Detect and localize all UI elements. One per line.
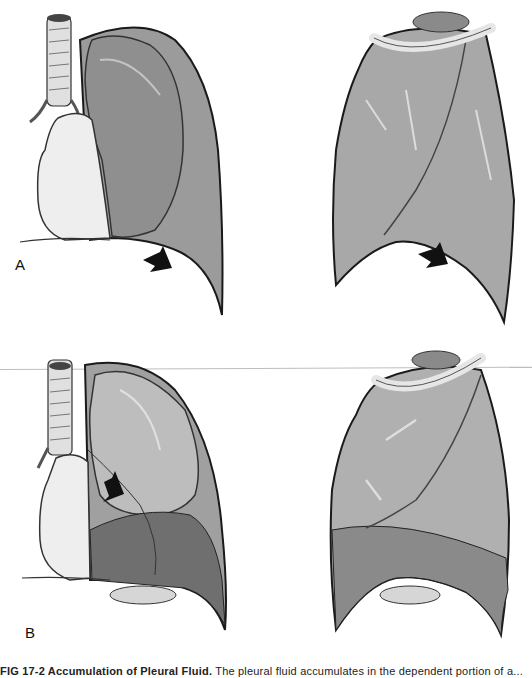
panel-b-anterior-view (0, 330, 266, 640)
panel-b-lateral-view (266, 330, 532, 640)
lung-anterior-effusion-illustration (0, 330, 266, 640)
panel-label-a: A (15, 256, 25, 273)
panel-a-lateral-view (266, 0, 532, 330)
arrow-indicator (143, 246, 172, 272)
lung-lateral-illustration (266, 0, 532, 330)
lung-lateral-effusion-illustration (266, 330, 532, 640)
lung-anterior-illustration (0, 0, 266, 330)
panel-a-anterior-view (0, 0, 266, 330)
figure-caption: FIG 17-2 Accumulation of Pleural Fluid. … (0, 664, 532, 678)
caption-text: The pleural fluid accumulates in the dep… (212, 665, 523, 677)
caption-lead: FIG 17-2 Accumulation of Pleural Fluid. (0, 665, 212, 677)
panel-label-b: B (25, 624, 35, 641)
